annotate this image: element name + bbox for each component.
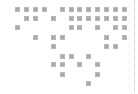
grid-cell[interactable]	[104, 35, 109, 40]
grid-cell[interactable]	[33, 35, 38, 40]
grid-cell[interactable]	[95, 16, 100, 21]
grid-cell[interactable]	[104, 7, 109, 12]
grid-cell[interactable]	[51, 35, 56, 40]
grid-cell[interactable]	[113, 44, 118, 49]
grid-cell[interactable]	[95, 72, 100, 77]
grid-cell[interactable]	[33, 16, 38, 21]
grid-cell[interactable]	[122, 35, 127, 40]
grid-cell[interactable]	[122, 16, 127, 21]
grid-cell[interactable]	[60, 35, 65, 40]
grid-cell[interactable]	[86, 54, 91, 59]
grid-cell[interactable]	[51, 16, 56, 21]
grid-cell[interactable]	[77, 62, 82, 67]
grid-cell[interactable]	[24, 16, 29, 21]
grid-cell[interactable]	[77, 7, 82, 12]
grid-cell[interactable]	[33, 7, 38, 12]
grid-cell[interactable]	[69, 16, 74, 21]
grid-cell[interactable]	[86, 81, 91, 86]
grid-cell[interactable]	[95, 62, 100, 67]
grid-cell[interactable]	[60, 7, 65, 12]
grid-cell[interactable]	[86, 7, 91, 12]
grid-cell[interactable]	[51, 62, 56, 67]
grid-cell[interactable]	[95, 25, 100, 30]
grid-cell[interactable]	[69, 54, 74, 59]
grid-cell[interactable]	[86, 16, 91, 21]
grid-cell[interactable]	[15, 7, 20, 12]
grid-cell[interactable]	[122, 7, 127, 12]
grid-cell[interactable]	[113, 25, 118, 30]
cell-grid	[0, 0, 138, 94]
grid-cell[interactable]	[122, 25, 127, 30]
grid-cell[interactable]	[69, 7, 74, 12]
grid-cell[interactable]	[60, 62, 65, 67]
grid-cell[interactable]	[69, 25, 74, 30]
grid-cell[interactable]	[60, 72, 65, 77]
grid-cell[interactable]	[15, 25, 20, 30]
grid-cell[interactable]	[104, 16, 109, 21]
grid-cell[interactable]	[104, 44, 109, 49]
grid-cell[interactable]	[95, 7, 100, 12]
grid-cell[interactable]	[113, 16, 118, 21]
grid-cell[interactable]	[60, 54, 65, 59]
grid-cell[interactable]	[24, 7, 29, 12]
grid-cell[interactable]	[77, 25, 82, 30]
grid-cell[interactable]	[42, 7, 47, 12]
grid-cell[interactable]	[113, 7, 118, 12]
grid-cell[interactable]	[51, 44, 56, 49]
grid-cell[interactable]	[77, 16, 82, 21]
dotted-divider	[134, 0, 135, 94]
